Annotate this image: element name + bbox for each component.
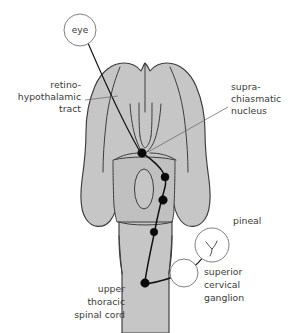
anatomy-figure: eye pineal superior cervical ganglion re… xyxy=(0,0,291,333)
spinal-relay-node-3 xyxy=(150,228,158,236)
spinal-cord-label-line1: upper xyxy=(98,283,125,294)
spinal-cord-label-line3: spinal cord xyxy=(74,309,125,320)
pineal-label: pineal xyxy=(233,215,261,226)
spinal-relay-node-1 xyxy=(161,173,169,181)
retinohypothalamic-label-line3: tract xyxy=(59,103,81,114)
scg-label-line3: ganglion xyxy=(204,292,244,303)
suprachiasmatic-label-line1: supra- xyxy=(231,81,261,92)
spinal-relay-node-2 xyxy=(159,196,168,205)
scg-label-line2: cervical xyxy=(204,279,240,290)
third-ventricle-oval xyxy=(135,169,154,209)
retinohypothalamic-label-line2: hypothalamic xyxy=(18,91,81,102)
superior-cervical-ganglion-circle[interactable] xyxy=(170,259,198,287)
spinal-cord-terminal-node xyxy=(141,279,150,288)
eye-callout-label: eye xyxy=(72,25,89,35)
suprachiasmatic-label-line2: chiasmatic xyxy=(231,93,281,104)
suprachiasmatic-nucleus-node xyxy=(138,149,147,158)
scg-label-line1: superior xyxy=(204,266,242,277)
retinohypothalamic-label-line1: retino- xyxy=(50,79,81,90)
suprachiasmatic-label-line3: nucleus xyxy=(231,105,267,116)
spinal-cord-label-line2: thoracic xyxy=(87,296,125,307)
pineal-callout-circle[interactable] xyxy=(195,228,229,262)
brain-pathway-diagram: eye pineal superior cervical ganglion re… xyxy=(0,0,291,333)
